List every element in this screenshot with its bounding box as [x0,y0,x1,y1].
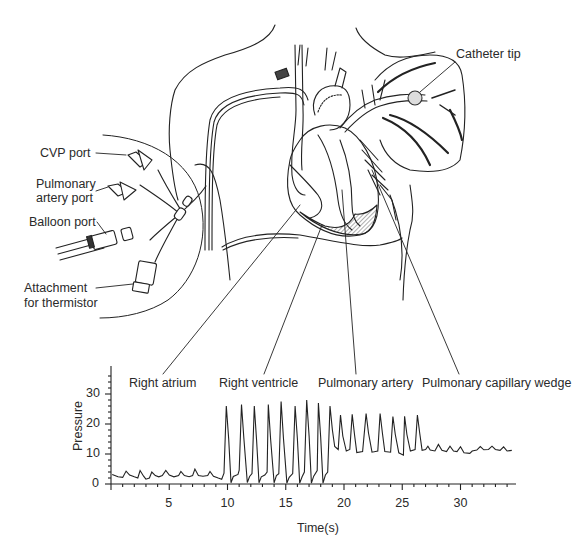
thermistor-leader [96,284,133,288]
aortic-arch [313,86,350,130]
cvp-port-label: CVP port [40,146,91,161]
balloon-valve [121,227,134,241]
leader-right-atrium [163,205,300,374]
hatched-myocardium [300,205,377,235]
lung-fissure-4 [450,110,462,140]
anatomy-illustration [0,0,581,560]
balloon-port-leader [97,222,106,234]
catheter-main-line [140,170,206,262]
x-axis-ticks [123,484,507,490]
pressure-waveform-line [112,400,512,483]
subclavian-vein-inner2 [212,97,280,250]
subclavian-vein-inner [209,93,304,250]
thermistor-label-line1: Attachment [24,281,87,296]
aorta-top [335,68,346,88]
x-tick-label: 10 [221,496,235,510]
annotation-pulmonary-artery: Pulmonary artery [318,376,413,391]
cvp-port-leader [96,153,126,155]
annotation-right-ventricle: Right ventricle [219,376,298,391]
right-torso-line [403,185,413,300]
heart-right-ventricle-wall [318,135,352,230]
x-tick-label: 20 [337,496,351,510]
diaphragm-arc2 [223,238,298,251]
svc-inner [301,45,303,170]
annotation-pulmonary-capillary-wedge: Pulmonary capillary wedge [422,376,571,391]
magnifier-circle [100,135,203,318]
annotation-right-atrium: Right atrium [129,376,196,391]
x-tick-label: 15 [279,496,293,510]
heart-septum [340,140,360,226]
catheter-hub-2 [182,195,193,207]
catheter-diagram-figure: Catheter tip CVP port Pulmonary artery p… [0,0,581,560]
y-tick-label: 10 [86,446,100,460]
x-tick-label: 5 [165,496,172,510]
catheter-tip-balloon [408,91,422,105]
balloon-port-label: Balloon port [29,215,96,230]
pa-connector-wings [120,182,136,200]
catheter-tip-label: Catheter tip [456,47,521,62]
thermistor-connector [135,261,157,286]
lung-fissure-1 [378,63,435,92]
y-tick-label: 0 [92,476,99,490]
thermistor-label-line2: for thermistor [24,296,98,311]
aorta-branch-1 [298,45,308,66]
y-axis-ticks [105,376,111,484]
pa-port-label-line2: artery port [36,191,93,206]
body-outline-left [169,25,275,200]
pa-port-label-line1: Pulmonary [36,177,96,192]
subclavian-vein [205,88,308,251]
pa-port-leader [96,187,108,191]
y-tick-label: 20 [86,416,100,430]
x-axis-label: Time(s) [297,521,339,536]
aorta-branch-2 [325,48,336,70]
aortic-arch-hatch [318,95,342,112]
x-tick-label: 25 [395,496,409,510]
x-tick-label: 30 [454,496,468,510]
catheter-tip-leader [420,62,455,92]
leader-pulmonary-wedge [372,170,459,374]
body-outline-right [356,28,435,57]
y-tick-label: 30 [86,386,100,400]
right-torso-line2 [390,195,402,280]
jugular-stub [275,68,289,80]
leader-right-ventricle [264,225,322,374]
y-axis-label: Pressure [71,401,85,451]
